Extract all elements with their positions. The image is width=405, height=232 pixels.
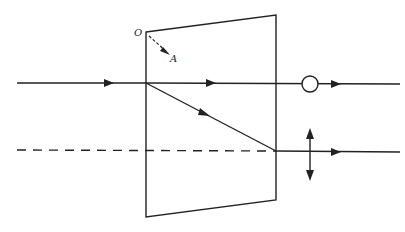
prism	[146, 15, 276, 217]
ordinary-ray	[146, 83, 400, 84]
incident-arrow-icon	[104, 79, 114, 87]
label-a: A	[169, 53, 177, 64]
extraordinary-outer-arrow-icon	[331, 148, 341, 156]
optic-axis-arrowhead-icon	[160, 47, 170, 55]
double-arrow-down-head-icon	[306, 170, 314, 181]
dashed-reference-line	[17, 150, 276, 151]
polarization-dot-icon	[302, 76, 318, 92]
ordinary-inner-arrow-icon	[206, 79, 216, 87]
double-arrow-up-head-icon	[306, 128, 314, 139]
prism-diagram: O A	[0, 0, 405, 232]
ordinary-outer-arrow-icon	[331, 80, 341, 88]
extraordinary-inner-arrow-icon	[198, 108, 210, 116]
label-o: O	[134, 27, 142, 38]
extraordinary-ray	[146, 83, 276, 151]
